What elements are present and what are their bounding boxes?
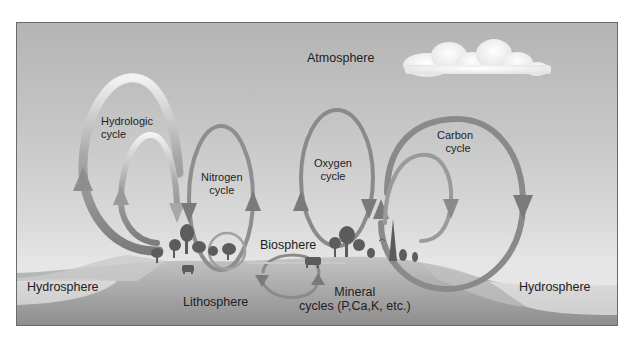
nitrogen-cycle-label: Nitrogen cycle	[201, 171, 243, 197]
cloud-icon	[403, 39, 551, 77]
mineral-cycles-label: Mineral cycles (P,Ca,K, etc.)	[299, 285, 411, 313]
lithosphere-label: Lithosphere	[183, 295, 248, 309]
oxygen-cycle-label: Oxygen cycle	[314, 157, 352, 183]
hydrosphere-left-label: Hydrosphere	[27, 280, 99, 294]
hydrologic-cycle-label: Hydrologic cycle	[101, 115, 153, 141]
hydrosphere-right-label: Hydrosphere	[519, 280, 591, 294]
hydrologic-cycle-arrows	[73, 78, 185, 251]
atmosphere-label: Atmosphere	[307, 51, 374, 65]
cycles-diagram: Atmosphere Hydrologic cycle Nitrogen cyc…	[16, 22, 618, 326]
carbon-cycle-label-line2: cycle	[437, 142, 473, 155]
carbon-cycle-label: Carbon cycle	[437, 129, 473, 155]
hydrologic-cycle-label-line2: cycle	[101, 128, 153, 141]
nitrogen-cycle-label-line2: cycle	[201, 184, 243, 197]
nitrogen-cycle-label-line1: Nitrogen	[201, 171, 243, 184]
carbon-cycle-label-line1: Carbon	[437, 129, 473, 142]
mineral-cycles-label-line2: cycles (P,Ca,K, etc.)	[299, 299, 411, 313]
hydrologic-cycle-label-line1: Hydrologic	[101, 115, 153, 128]
biosphere-label: Biosphere	[260, 238, 316, 252]
oxygen-cycle-label-line2: cycle	[314, 170, 352, 183]
oxygen-cycle-label-line1: Oxygen	[314, 157, 352, 170]
mineral-cycles-label-line1: Mineral	[299, 285, 411, 299]
